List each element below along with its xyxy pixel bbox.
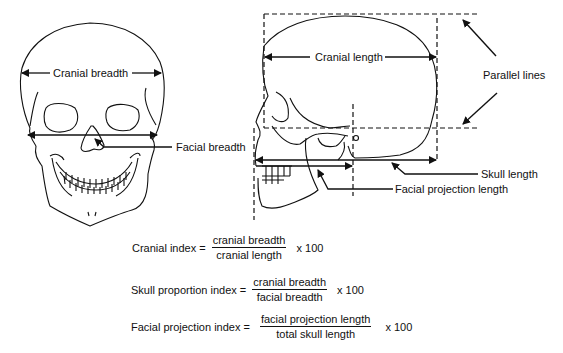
denominator: cranial length [216, 248, 281, 261]
skull-proportion-index-formula: Skull proportion index = cranial breadth… [131, 276, 364, 303]
facial-projection-arrow [256, 166, 393, 189]
fraction: cranial breadth facial breadth [252, 276, 327, 303]
lateral-skull-drawing [255, 16, 437, 208]
facial-projection-length-label: Facial projection length [393, 183, 510, 195]
formula-name: Skull proportion index = [131, 284, 246, 296]
multiplier: x 100 [296, 242, 323, 254]
denominator: facial breadth [257, 290, 323, 303]
formula-name: Facial projection index = [131, 321, 250, 333]
front-skull-drawing [20, 23, 164, 226]
denominator: total skull length [276, 327, 355, 340]
skull-length-label: Skull length [479, 168, 540, 180]
parallel-lines-label: Parallel lines [481, 69, 547, 81]
numerator: cranial breadth [252, 276, 327, 290]
fraction: cranial breadth cranial length [212, 234, 287, 261]
cranial-length-label: Cranial length [313, 51, 385, 63]
cranial-index-formula: Cranial index = cranial breadth cranial … [132, 234, 323, 261]
numerator: facial projection length [260, 313, 371, 327]
multiplier: x 100 [337, 284, 364, 296]
numerator: cranial breadth [212, 234, 287, 248]
facial-breadth-label: Facial breadth [174, 141, 248, 153]
formula-name: Cranial index = [132, 242, 206, 254]
fraction: facial projection length total skull len… [260, 313, 371, 340]
cranial-breadth-label: Cranial breadth [51, 67, 130, 79]
skull-length-arrow [256, 160, 478, 174]
multiplier: x 100 [385, 321, 412, 333]
facial-projection-index-formula: Facial projection index = facial project… [131, 313, 412, 340]
